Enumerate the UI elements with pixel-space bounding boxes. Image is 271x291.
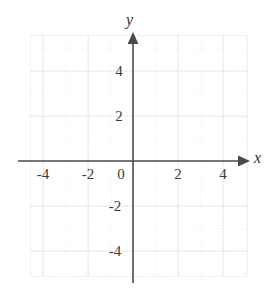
- x-tick-label-4: 4: [216, 167, 230, 182]
- y-axis-name: y: [126, 12, 133, 28]
- y-tick-label-2: 2: [112, 109, 126, 124]
- coordinate-plane-figure: -4 -2 0 2 4 4 2 -2 -4 x y: [0, 0, 271, 291]
- y-tick-label-4: 4: [112, 64, 126, 79]
- grid-minor-lines: [31, 36, 248, 277]
- coordinate-grid-svg: [0, 0, 271, 291]
- y-tick-label-neg2: -2: [104, 199, 126, 214]
- x-tick-label-neg2: -2: [79, 167, 97, 182]
- x-tick-label-neg4: -4: [34, 167, 52, 182]
- y-tick-label-neg4: -4: [104, 244, 126, 259]
- x-axis-name: x: [254, 150, 261, 166]
- x-tick-label-2: 2: [171, 167, 185, 182]
- x-tick-label-zero: 0: [114, 167, 128, 182]
